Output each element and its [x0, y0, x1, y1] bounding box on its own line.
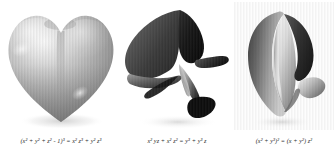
- folded-surface-stage: [118, 2, 236, 130]
- heart-shading-group: [0, 2, 122, 130]
- folded-scanline-texture: [118, 2, 236, 130]
- heart-body-group: [0, 2, 122, 130]
- heart-surface-stage: [0, 2, 122, 130]
- figure-caption-folded: x² yz + x² z² = y³ + y³ z: [118, 136, 236, 145]
- folded-body-group: [118, 2, 236, 130]
- folded-surface-image: [118, 2, 236, 130]
- heart-surface-image: [0, 2, 122, 130]
- figure-panel-heart: (x² + y² + z² - 1)³ = x² z³ + y² z³: [0, 0, 122, 157]
- twisted-body-group: [234, 2, 334, 130]
- twisted-scanline-texture: [234, 2, 334, 130]
- algebraic-surfaces-figure: (x² + y² + z² - 1)³ = x² z³ + y² z³: [0, 0, 334, 157]
- figure-panel-folded: x² yz + x² z² = y³ + y³ z: [118, 0, 236, 157]
- heart-scanline-texture: [0, 2, 122, 130]
- figure-caption-twisted: (x² + y³)² = (x + y²) z²: [234, 136, 334, 145]
- figure-panel-twisted: (x² + y³)² = (x + y²) z²: [234, 0, 334, 157]
- figure-caption-heart: (x² + y² + z² - 1)³ = x² z³ + y² z³: [0, 136, 122, 145]
- twisted-surface-image: [234, 2, 334, 130]
- twisted-surface-stage: [234, 2, 334, 130]
